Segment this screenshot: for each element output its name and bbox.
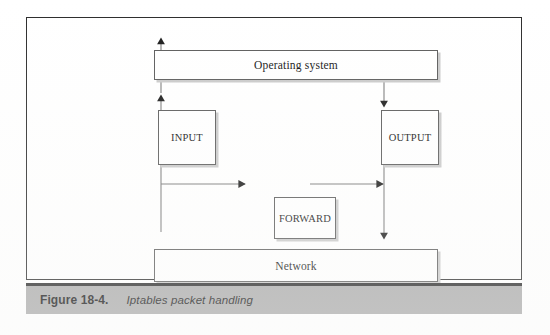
diagram-canvas: Operating system INPUT OUTPUT FORWARD Ne… xyxy=(26,17,522,280)
node-network-label: Network xyxy=(275,260,317,272)
node-output: OUTPUT xyxy=(381,110,439,165)
node-forward: FORWARD xyxy=(274,197,336,239)
figure-caption-number: Figure 18-4. xyxy=(40,293,109,307)
figure-caption-band: Figure 18-4. Iptables packet handling xyxy=(26,283,522,314)
node-input: INPUT xyxy=(158,110,216,165)
node-operating-system: Operating system xyxy=(154,50,438,80)
node-input-label: INPUT xyxy=(171,132,203,143)
figure-18-4: Operating system INPUT OUTPUT FORWARD Ne… xyxy=(0,0,550,335)
figure-caption-title: Iptables packet handling xyxy=(127,294,253,306)
node-network: Network xyxy=(154,249,438,282)
node-operating-system-label: Operating system xyxy=(254,59,338,71)
node-forward-label: FORWARD xyxy=(279,213,331,224)
node-output-label: OUTPUT xyxy=(389,132,432,143)
